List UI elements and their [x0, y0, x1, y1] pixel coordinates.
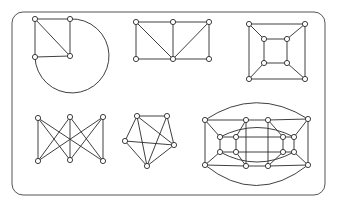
- vertex-node: [280, 134, 285, 139]
- vertex-node: [291, 149, 296, 154]
- vertex-node: [202, 162, 207, 167]
- vertex-node: [32, 54, 37, 59]
- vertex-node: [261, 60, 266, 65]
- vertex-node: [206, 19, 211, 24]
- vertex-node: [265, 117, 270, 122]
- vertex-node: [291, 134, 296, 139]
- vertex-node: [170, 19, 175, 24]
- vertex-node: [171, 142, 176, 147]
- vertex-node: [217, 149, 222, 154]
- vertex-node: [206, 56, 211, 61]
- vertex-node: [67, 16, 72, 21]
- vertex-node: [100, 158, 105, 163]
- vertex-node: [302, 76, 307, 81]
- graph-diagram-svg: [0, 0, 337, 206]
- vertex-node: [67, 53, 72, 58]
- vertex-node: [246, 76, 251, 81]
- vertex-node: [217, 134, 222, 139]
- vertex-node: [164, 113, 169, 118]
- vertex-node: [246, 21, 251, 26]
- vertex-node: [284, 36, 289, 41]
- vertex-node: [35, 158, 40, 163]
- vertex-node: [305, 116, 310, 121]
- vertex-node: [133, 56, 138, 61]
- vertex-node: [233, 134, 238, 139]
- vertex-node: [32, 16, 37, 21]
- vertex-node: [144, 163, 149, 168]
- vertex-node: [265, 163, 270, 168]
- vertex-node: [202, 117, 207, 122]
- vertex-node: [100, 114, 105, 119]
- vertex-node: [122, 138, 127, 143]
- vertex-node: [35, 115, 40, 120]
- vertex-node: [305, 162, 310, 167]
- vertex-node: [280, 149, 285, 154]
- vertex-node: [67, 114, 72, 119]
- vertex-node: [133, 19, 138, 24]
- vertex-node: [134, 113, 139, 118]
- vertex-node: [67, 157, 72, 162]
- vertex-node: [233, 149, 238, 154]
- vertex-node: [243, 117, 248, 122]
- vertex-node: [261, 36, 266, 41]
- vertex-node: [243, 163, 248, 168]
- vertex-node: [170, 56, 175, 61]
- vertex-node: [302, 21, 307, 26]
- vertex-node: [284, 60, 289, 65]
- graph-figure: [0, 0, 337, 206]
